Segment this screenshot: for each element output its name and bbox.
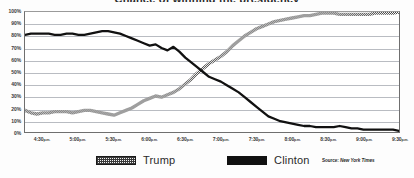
x-axis-tick-label: 9:00p.m.: [356, 136, 372, 142]
source-note: Source: New York Times: [322, 158, 374, 163]
y-axis-tick-label: 50%: [11, 69, 21, 75]
x-axis-tick-label: 8:30p.m.: [320, 136, 336, 142]
trump-series-line: [25, 12, 399, 132]
page-title: Chance of winning the presidency: [0, 0, 414, 2]
y-axis-tick-label: 70%: [11, 45, 21, 51]
y-axis-tick-label: 100%: [9, 8, 21, 14]
y-axis-tick-label: 80%: [11, 32, 21, 38]
plot-area: [24, 11, 400, 133]
x-axis-tick-label: 5:30p.m.: [105, 136, 121, 142]
trump-swatch-icon: [96, 156, 136, 165]
series-layer: [25, 12, 399, 132]
x-axis-tick-label: 5:00p.m.: [70, 136, 86, 142]
x-axis-tick-label: 6:30p.m.: [177, 136, 193, 142]
x-axis: 4:30p.m.5:00p.m.5:30p.m.6:00p.m.6:30p.m.…: [24, 136, 400, 146]
y-axis-tick-label: 20%: [11, 106, 21, 112]
x-axis-tick-label: 4:30p.m.: [34, 136, 50, 142]
x-axis-tick-label: 7:00p.m.: [213, 136, 229, 142]
y-axis-tick-label: 90%: [11, 20, 21, 26]
y-axis-tick-label: 40%: [11, 81, 21, 87]
legend-label-clinton: Clinton: [274, 154, 310, 166]
source-name: New York Times: [340, 158, 374, 163]
source-lead: Source:: [322, 158, 339, 163]
x-axis-tick-label: 7:30p.m.: [249, 136, 265, 142]
legend-label-trump: Trump: [143, 154, 175, 166]
x-axis-tick-label: 6:00p.m.: [141, 136, 157, 142]
y-axis-tick-label: 0%: [14, 130, 21, 136]
x-axis-tick-label: 9:30p.m.: [392, 136, 408, 142]
chart-page: Chance of winning the presidency 0%10%20…: [0, 0, 414, 178]
y-axis-tick-label: 60%: [11, 57, 21, 63]
legend-item-clinton[interactable]: Clinton: [227, 152, 310, 168]
y-axis: 0%10%20%30%40%50%60%70%80%90%100%: [0, 11, 22, 133]
y-axis-tick-label: 10%: [11, 118, 21, 124]
clinton-swatch-icon: [227, 156, 267, 165]
x-axis-tick-label: 8:00p.m.: [284, 136, 300, 142]
legend-item-trump[interactable]: Trump: [96, 152, 175, 168]
plot-inner: [25, 12, 399, 132]
y-axis-tick-label: 30%: [11, 93, 21, 99]
